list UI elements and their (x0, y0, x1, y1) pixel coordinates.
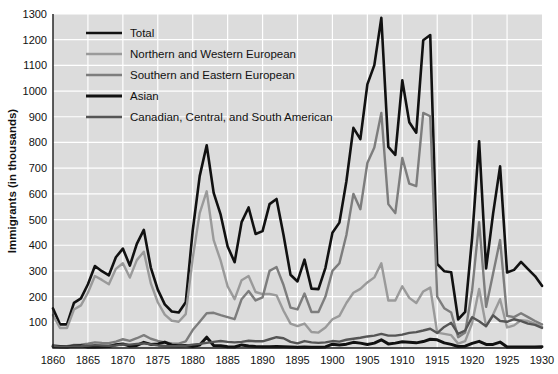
x-tick-label: 1920 (460, 354, 484, 366)
y-tick-label: 200 (29, 291, 47, 303)
legend-label: Northern and Western European (130, 48, 296, 60)
x-tick-label: 1875 (146, 354, 170, 366)
y-axis-title: Immigrants (in thousands) (6, 109, 18, 254)
y-tick-label: 500 (29, 214, 47, 226)
legend-label: Asian (130, 90, 159, 102)
x-tick-label: 1890 (250, 354, 274, 366)
x-tick-label: 1865 (76, 354, 100, 366)
x-tick-label: 1905 (355, 354, 379, 366)
y-tick-label: 800 (29, 136, 47, 148)
legend-label: Canadian, Central, and South American (130, 111, 333, 123)
y-tick-label: 600 (29, 188, 47, 200)
x-tick-label: 1870 (111, 354, 135, 366)
y-tick-label: 1200 (23, 34, 47, 46)
y-tick-label: 700 (29, 162, 47, 174)
immigration-line-chart: 1002003004005006007008009001000110012001… (0, 0, 558, 374)
x-tick-labels: 1860186518701875188018851890189519001905… (41, 354, 554, 366)
y-tick-label: 100 (29, 316, 47, 328)
x-tick-label: 1895 (285, 354, 309, 366)
y-tick-label: 400 (29, 239, 47, 251)
chart-svg: 1002003004005006007008009001000110012001… (0, 0, 558, 374)
x-tick-label: 1880 (180, 354, 204, 366)
x-tick-label: 1860 (41, 354, 65, 366)
x-tick-label: 1900 (320, 354, 344, 366)
legend-label: Total (130, 27, 154, 39)
y-tick-label: 300 (29, 265, 47, 277)
y-tick-labels: 1002003004005006007008009001000110012001… (23, 8, 47, 328)
y-tick-label: 1300 (23, 8, 47, 20)
legend-label: Southern and Eastern European (130, 69, 295, 81)
x-tick-label: 1910 (390, 354, 414, 366)
x-tick-label: 1930 (530, 354, 554, 366)
x-tick-label: 1925 (495, 354, 519, 366)
x-tick-label: 1885 (215, 354, 239, 366)
x-tick-label: 1915 (425, 354, 449, 366)
y-tick-label: 1000 (23, 85, 47, 97)
y-tick-label: 900 (29, 111, 47, 123)
y-tick-label: 1100 (23, 59, 47, 71)
